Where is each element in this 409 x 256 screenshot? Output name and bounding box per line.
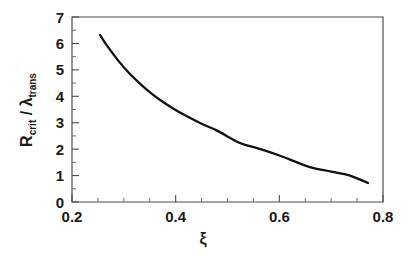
y-axis-title-sub-1: crit <box>27 119 38 135</box>
x-tick-label: 0.4 <box>165 208 187 225</box>
x-tick-label: 0.2 <box>62 208 83 225</box>
line-chart: 0 1 2 3 4 5 6 7 0.2 0.4 0.6 0.8 ξ Rcrit … <box>0 0 409 256</box>
y-axis-title-separator: / <box>18 106 35 119</box>
y-tick-label: 5 <box>56 61 64 78</box>
y-tick-label: 2 <box>56 141 64 158</box>
x-tick-label: 0.8 <box>373 208 394 225</box>
x-tick-label: 0.6 <box>269 208 290 225</box>
x-axis-title: ξ <box>199 230 207 248</box>
y-tick-label: 1 <box>56 167 64 184</box>
y-tick-label: 6 <box>56 35 64 52</box>
figure-container: 0 1 2 3 4 5 6 7 0.2 0.4 0.6 0.8 ξ Rcrit … <box>0 0 409 256</box>
x-axis-title-text: ξ <box>199 230 207 248</box>
y-tick-label: 3 <box>56 114 64 131</box>
y-tick-label: 4 <box>56 88 65 105</box>
y-tick-label: 7 <box>56 9 64 26</box>
y-axis-title-sub-2: trans <box>27 73 38 98</box>
y-axis-title-main-1: R <box>18 135 35 147</box>
y-axis-title-main-2: λ <box>18 97 35 106</box>
